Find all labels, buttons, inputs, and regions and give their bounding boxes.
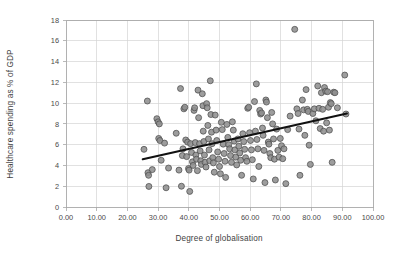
y-tick-label: 4 <box>55 161 59 170</box>
y-tick-label: 6 <box>55 140 59 149</box>
data-point <box>246 104 252 110</box>
data-point <box>280 156 286 162</box>
data-point <box>287 113 293 119</box>
data-point <box>277 135 283 141</box>
data-point <box>264 115 270 121</box>
data-point <box>255 146 261 152</box>
data-point <box>242 146 248 152</box>
data-point <box>201 152 207 158</box>
data-point <box>222 158 228 164</box>
data-point <box>203 164 209 170</box>
gridlines <box>66 20 373 207</box>
data-point <box>299 97 305 103</box>
y-tick-label: 0 <box>55 203 59 212</box>
data-point <box>321 128 327 134</box>
x-tick-label: 0.00 <box>59 213 73 222</box>
data-point <box>266 141 272 147</box>
x-tick-label: 40.00 <box>180 213 199 222</box>
data-point <box>324 120 330 126</box>
x-tick-label: 10.00 <box>87 213 106 222</box>
data-point <box>207 78 213 84</box>
data-point <box>236 143 242 149</box>
data-point <box>205 122 211 128</box>
data-point <box>230 127 236 133</box>
y-tick-label: 18 <box>51 16 59 25</box>
x-tick-label: 60.00 <box>241 213 260 222</box>
y-tick-label: 16 <box>51 36 59 45</box>
data-point <box>200 128 206 134</box>
data-point <box>261 147 267 153</box>
data-point <box>296 126 302 132</box>
x-tick-label: 100.00 <box>362 213 385 222</box>
data-point <box>269 109 275 115</box>
data-point <box>320 106 326 112</box>
data-point <box>204 105 210 111</box>
data-point <box>194 168 200 174</box>
data-point <box>158 157 164 163</box>
data-point <box>223 174 229 180</box>
x-tick-label: 50.00 <box>210 213 229 222</box>
data-point <box>219 127 225 133</box>
data-point <box>332 90 338 96</box>
data-point <box>270 121 276 127</box>
x-axis-title: Degree of globalisation <box>175 234 262 243</box>
x-tick-label: 70.00 <box>272 213 291 222</box>
data-point <box>259 125 265 131</box>
data-point <box>254 136 260 142</box>
data-point <box>248 138 254 144</box>
data-point <box>303 87 309 93</box>
y-axis-tick-labels: 024681012141618 <box>51 16 59 212</box>
data-point <box>146 172 152 178</box>
data-point <box>295 111 301 117</box>
x-tick-label: 30.00 <box>149 213 168 222</box>
data-point <box>248 147 254 153</box>
data-point <box>210 160 216 166</box>
data-point <box>182 104 188 110</box>
data-point <box>213 127 219 133</box>
y-axis-title: Healthcare spending as % of GDP <box>6 49 15 179</box>
data-point <box>176 167 182 173</box>
y-tick-label: 12 <box>51 78 59 87</box>
data-point <box>292 26 298 32</box>
data-point <box>328 101 334 107</box>
data-point <box>244 158 250 164</box>
x-axis-tick-labels: 0.0010.0020.0030.0040.0050.0060.0070.008… <box>59 213 385 222</box>
data-point <box>217 171 223 177</box>
data-point <box>178 86 184 92</box>
data-point <box>166 165 172 171</box>
y-tick-label: 14 <box>51 57 59 66</box>
data-point <box>239 172 245 178</box>
data-point <box>215 149 221 155</box>
data-point <box>146 183 152 189</box>
y-tick-label: 8 <box>55 120 59 129</box>
y-tick-label: 2 <box>55 182 59 191</box>
x-tick-label: 20.00 <box>118 213 137 222</box>
data-point <box>249 157 255 163</box>
data-point <box>216 156 222 162</box>
data-point <box>307 161 313 167</box>
data-point <box>281 146 287 152</box>
data-point <box>229 119 235 125</box>
data-point <box>283 181 289 187</box>
data-point <box>297 172 303 178</box>
data-point <box>156 121 162 127</box>
data-point <box>173 130 179 136</box>
scatter-chart-figure: 0.0010.0020.0030.0040.0050.0060.0070.008… <box>0 0 411 257</box>
data-point <box>329 159 335 165</box>
data-point <box>262 180 268 186</box>
data-point <box>271 136 277 142</box>
data-point <box>263 99 269 105</box>
data-point <box>149 167 155 173</box>
data-point <box>190 162 196 168</box>
data-point <box>217 163 223 169</box>
data-point <box>184 154 190 160</box>
data-point <box>187 188 193 194</box>
data-point <box>162 140 168 146</box>
data-point <box>206 147 212 153</box>
x-tick-label: 80.00 <box>302 213 321 222</box>
scatter-points <box>141 26 349 194</box>
data-point <box>250 176 256 182</box>
data-point <box>325 89 331 95</box>
data-point <box>212 112 218 118</box>
data-point <box>199 91 205 97</box>
